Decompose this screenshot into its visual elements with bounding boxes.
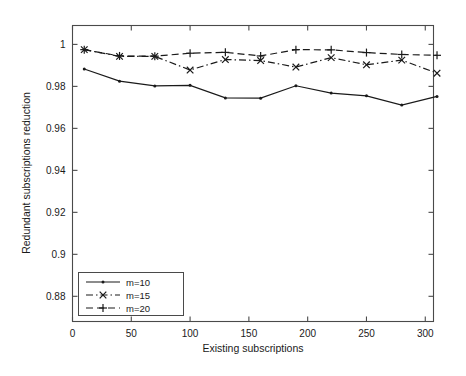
data-point-marker	[153, 84, 156, 87]
y-axis-tick-labels: 0.880.90.920.940.960.981	[46, 39, 66, 302]
data-point-marker	[434, 70, 441, 77]
y-tick-label: 0.98	[46, 81, 66, 92]
data-point-marker	[400, 104, 403, 107]
data-point-marker	[365, 94, 368, 97]
data-point-marker	[330, 92, 333, 95]
data-point-marker	[259, 97, 262, 100]
x-tick-label: 0	[70, 328, 76, 339]
y-tick-label: 0.92	[46, 207, 66, 218]
data-point-marker	[118, 80, 121, 83]
x-tick-label: 200	[299, 328, 316, 339]
data-point-marker	[436, 95, 439, 98]
data-point-marker	[102, 281, 105, 284]
x-tick-label: 250	[358, 328, 375, 339]
data-point-marker	[224, 96, 227, 99]
y-axis-title: Redundant subscriptions reduction	[20, 92, 32, 254]
x-axis-title: Existing subscriptions	[203, 342, 304, 354]
chart-figure: 0.880.90.920.940.960.981 050100150200250…	[0, 0, 466, 376]
y-tick-label: 0.94	[46, 165, 66, 176]
legend-label: m=15	[126, 290, 150, 301]
line-chart: 0.880.90.920.940.960.981 050100150200250…	[0, 0, 466, 376]
x-tick-label: 300	[417, 328, 434, 339]
legend-label: m=20	[126, 303, 150, 314]
y-tick-label: 1	[60, 39, 66, 50]
x-tick-label: 50	[126, 328, 138, 339]
chart-legend: m=10m=15m=20	[79, 273, 184, 316]
data-point-marker	[294, 84, 297, 87]
data-point-marker	[189, 84, 192, 87]
y-tick-label: 0.9	[52, 249, 66, 260]
x-axis-tick-labels: 050100150200250300	[70, 328, 434, 339]
x-tick-label: 150	[241, 328, 258, 339]
y-tick-label: 0.96	[46, 123, 66, 134]
legend-label: m=10	[126, 277, 150, 288]
x-tick-label: 100	[182, 328, 199, 339]
data-point-marker	[433, 51, 441, 59]
y-tick-label: 0.88	[46, 291, 66, 302]
data-point-marker	[83, 67, 86, 70]
